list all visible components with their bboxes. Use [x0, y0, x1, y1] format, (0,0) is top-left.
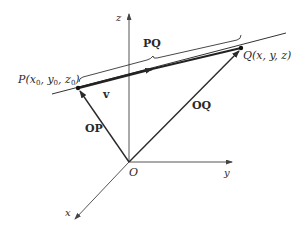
z-axis-label: z [116, 13, 121, 23]
vector-oq-label: OQ [192, 100, 211, 111]
y-axis-label: y [224, 168, 230, 178]
vector-v-label: v [103, 89, 109, 100]
vector-pq-label: PQ [143, 38, 161, 49]
x-axis-label: x [65, 208, 71, 218]
diagram-canvas [0, 0, 307, 233]
x-axis [75, 162, 129, 219]
vector-oq [129, 51, 239, 162]
point-p-label: P(x0, y0, z0) [18, 74, 80, 87]
segment-pq [150, 48, 241, 70]
p-close-paren: ) [75, 73, 79, 86]
point-q-label: Q(x, y, z) [243, 50, 291, 61]
origin-label: O [129, 167, 138, 178]
vector-v [78, 69, 152, 88]
vector-op-label: OP [85, 123, 103, 134]
line-in-space-diagram: z y x O P(x0, y0, z0) Q(x, y, z) v PQ OP… [0, 0, 307, 233]
